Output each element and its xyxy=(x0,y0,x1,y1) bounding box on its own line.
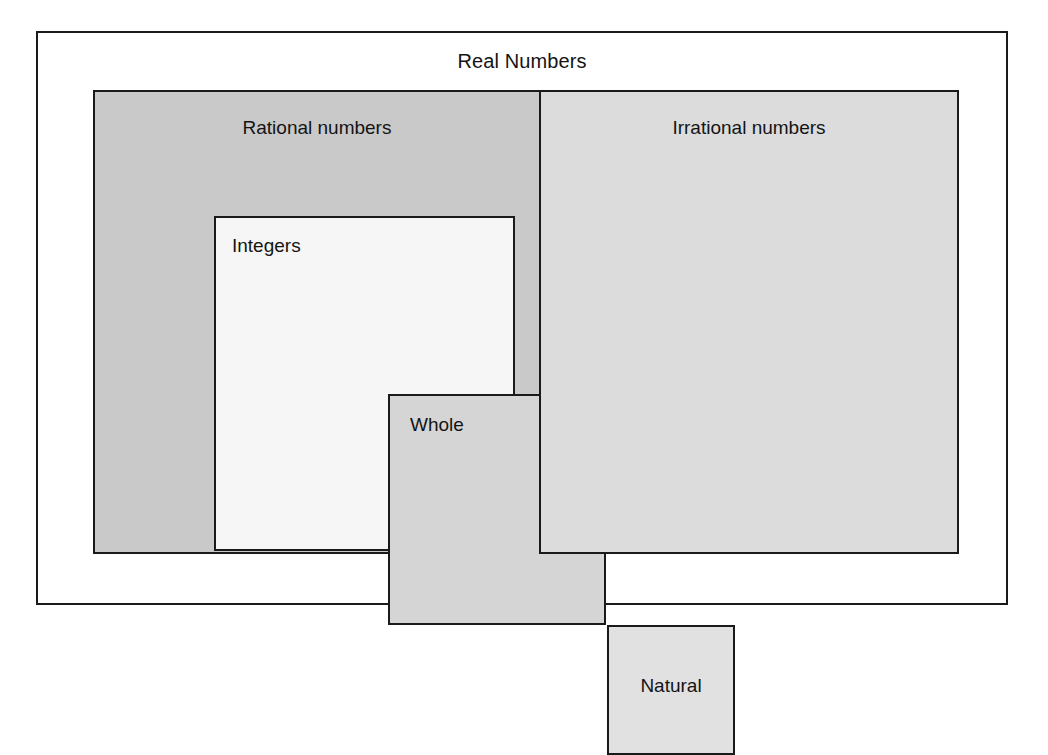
natural-numbers-set: Natural xyxy=(607,625,735,755)
irrational-numbers-label: Irrational numbers xyxy=(541,116,957,139)
integers-label: Integers xyxy=(232,234,301,257)
real-numbers-label: Real Numbers xyxy=(38,49,1006,73)
integers-set: Integers Whole Natural xyxy=(214,216,515,551)
real-numbers-set: Real Numbers Rational numbers Integers W… xyxy=(36,31,1008,605)
whole-numbers-label: Whole xyxy=(410,413,464,436)
rational-numbers-set: Rational numbers Integers Whole Natural xyxy=(93,90,541,554)
irrational-numbers-set: Irrational numbers xyxy=(539,90,959,554)
rational-numbers-label: Rational numbers xyxy=(95,116,539,139)
natural-numbers-label: Natural xyxy=(609,674,733,697)
